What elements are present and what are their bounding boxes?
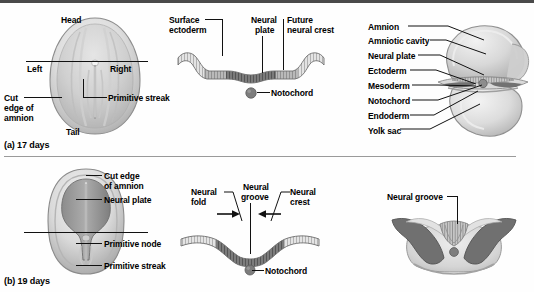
leader-cut-edge-of-amnion bbox=[24, 97, 62, 98]
label-notochord-17days: Notochord bbox=[271, 88, 313, 98]
left-right-axis-line bbox=[26, 61, 148, 62]
leader-yolk-sac bbox=[400, 98, 484, 132]
page-top-rule bbox=[0, 0, 534, 3]
label-primitive-streak: Primitive streak bbox=[108, 93, 170, 103]
label-cut-edge-of-amnion-19days-line2: of amnion bbox=[104, 181, 144, 191]
label-neural-crest-line1: Neural bbox=[290, 187, 316, 197]
leader-neural-groove-section bbox=[250, 203, 251, 254]
caption-panel-a: (a) 17 days bbox=[4, 140, 49, 150]
label-neural-fold-line2: fold bbox=[191, 197, 206, 207]
leader-primitive-streak-19days bbox=[76, 265, 102, 266]
label-head: Head bbox=[61, 15, 81, 25]
leader-cut-edge-of-amnion-19days bbox=[86, 175, 102, 176]
label-future-neural-crest-line2: neural crest bbox=[287, 25, 334, 35]
label-neural-groove-section-line1: Neural bbox=[243, 182, 269, 192]
leader-neural-groove-3d bbox=[447, 196, 457, 197]
label-surface-ectoderm-line2: ectoderm bbox=[169, 25, 206, 35]
embryology-figure: Head Left Right Tail Cut edge of amnion … bbox=[0, 0, 534, 292]
label-neural-plate-section-line1: Neural bbox=[251, 15, 277, 25]
embryo-3d-19days-illustration bbox=[388, 208, 520, 280]
leader-primitive-streak bbox=[83, 97, 107, 98]
dorsal-view-17days-illustration bbox=[40, 14, 150, 139]
leader-primitive-streak-riser bbox=[83, 79, 84, 98]
panel-divider bbox=[4, 156, 516, 157]
label-cut-edge-of-amnion-19days-line1: Cut edge bbox=[104, 171, 140, 181]
label-neural-groove-section-line2: groove bbox=[241, 192, 269, 202]
label-neural-plate-19days: Neural plate bbox=[104, 195, 151, 205]
label-notochord-19days: Notochord bbox=[265, 266, 307, 276]
leader-neural-plate-19days bbox=[76, 199, 102, 200]
leader-surface-ectoderm-riser bbox=[222, 19, 223, 56]
label-yolk-sac: Yolk sac bbox=[368, 126, 401, 136]
label-neural-plate-section-line2: plate bbox=[255, 25, 274, 35]
label-neural-crest-line2: crest bbox=[290, 197, 310, 207]
leader-primitive-node bbox=[76, 243, 102, 244]
label-cut-edge-of-amnion-line2: edge of bbox=[4, 103, 34, 113]
label-amniotic-cavity: Amniotic cavity bbox=[368, 36, 429, 46]
leader-neural-crest bbox=[268, 189, 292, 223]
label-neural-plate-3d: Neural plate bbox=[368, 51, 415, 61]
label-future-neural-crest-line1: Future bbox=[287, 15, 313, 25]
label-primitive-node: Primitive node bbox=[104, 239, 161, 249]
label-cut-edge-of-amnion-line3: amnion bbox=[4, 113, 34, 123]
label-neural-groove-3d: Neural groove bbox=[387, 192, 443, 202]
label-amnion: Amnion bbox=[368, 22, 399, 32]
leader-notochord-17days bbox=[257, 92, 270, 93]
leader-neural-groove-3d-riser bbox=[457, 196, 458, 224]
label-neural-fold-line1: Neural bbox=[191, 187, 217, 197]
leader-surface-ectoderm bbox=[205, 19, 222, 20]
label-mesoderm: Mesoderm bbox=[368, 81, 410, 91]
label-primitive-streak-19days: Primitive streak bbox=[104, 261, 166, 271]
label-ectoderm: Ectoderm bbox=[368, 66, 406, 76]
leader-future-neural-crest bbox=[283, 19, 284, 70]
label-left: Left bbox=[27, 64, 42, 74]
label-right: Right bbox=[110, 64, 131, 74]
label-surface-ectoderm-line1: Surface bbox=[169, 15, 199, 25]
caption-panel-b: (b) 19 days bbox=[4, 276, 50, 286]
leader-neural-plate-section bbox=[262, 36, 263, 73]
label-cut-edge-of-amnion-line1: Cut bbox=[4, 93, 18, 103]
midline-axis-line-19days bbox=[24, 232, 148, 233]
leader-notochord-19days bbox=[252, 270, 264, 271]
label-tail: Tail bbox=[66, 127, 80, 137]
